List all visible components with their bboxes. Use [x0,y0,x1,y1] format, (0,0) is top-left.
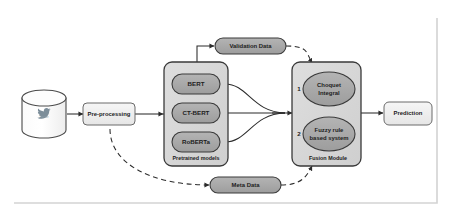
preprocessing-label: Pre-processing [88,111,131,117]
twitter-database-node[interactable]: Twitter [22,90,66,138]
model-node-bert[interactable]: BERT [172,74,220,94]
roberta-label: RoBERTa [182,138,211,145]
validation-data-node[interactable]: Validation Data [215,38,286,54]
fusion-method-index-1: 1 [297,85,301,92]
cylinder-top [22,90,66,106]
choquet-integral-label-line1: Choquet [317,82,341,88]
model-node-ct-bert[interactable]: CT-BERT [172,103,220,123]
choquet-integral-shape [303,72,355,106]
meta-data-node[interactable]: Meta Data [210,177,281,193]
meta-data-label: Meta Data [232,182,261,188]
edge-bert-to-fusion [225,84,285,113]
edge-validation-to-fusion [286,46,312,63]
edge-metadata-to-fusion [281,166,312,185]
model-node-roberta[interactable]: RoBERTa [172,132,220,152]
architecture-diagram: Twitter Pre-processing BERT CT-BERT RoBE… [0,0,460,223]
prediction-label: Prediction [394,110,423,116]
fuzzy-rule-shape [303,117,355,151]
choquet-integral-label-line2: Integral [318,90,340,96]
edge-roberta-to-fusion [225,113,285,142]
fuzzy-rule-label-line2: based system [310,135,349,141]
fusion-method-index-2: 2 [297,130,301,137]
diagram-canvas: Twitter Pre-processing BERT CT-BERT RoBE… [0,0,460,223]
preprocessing-node[interactable]: Pre-processing [83,103,135,125]
fusion-node-fuzzy-rule-based-system[interactable]: Fuzzy rule based system [303,117,355,151]
pretrained-models-container[interactable]: BERT CT-BERT RoBERTa Pretrained models [164,62,228,166]
fusion-node-choquet-integral[interactable]: Choquet Integral [303,72,355,106]
fuzzy-rule-label-line1: Fuzzy rule [315,127,345,133]
fusion-module-container[interactable]: 1 Choquet Integral 2 Fuzzy rule based sy… [292,62,361,166]
twitter-caption: Twitter [39,115,49,119]
pretrained-container-label: Pretrained models [172,155,219,161]
fusion-container-label: Fusion Module [309,155,347,161]
bert-label: BERT [188,80,205,87]
ct-bert-label: CT-BERT [183,109,210,116]
validation-data-label: Validation Data [229,43,272,49]
prediction-node[interactable]: Prediction [384,102,432,125]
